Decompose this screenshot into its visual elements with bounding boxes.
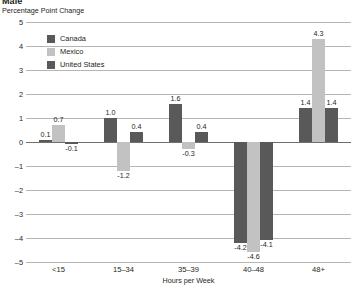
legend-label-mexico: Mexico — [60, 47, 83, 56]
bar-slot: -4.1 — [260, 22, 273, 262]
bar[interactable] — [299, 108, 312, 142]
legend-item-united-states: United States — [47, 59, 104, 70]
bar-value-label: 1.4 — [327, 99, 337, 107]
bar-group: 1.6-0.30.4 — [156, 22, 221, 262]
bar-value-label: 1.4 — [301, 99, 311, 107]
bar-value-label: -4.1 — [260, 241, 272, 249]
bar-slot: 0.4 — [195, 22, 208, 262]
bar[interactable] — [130, 132, 143, 142]
bar-value-label: -0.1 — [65, 145, 77, 153]
y-axis-tick-label: 4 — [19, 42, 23, 51]
chart-subtitle: Percentage Point Change — [2, 6, 84, 15]
bar[interactable] — [52, 125, 65, 142]
bar-slot: -0.3 — [182, 22, 195, 262]
legend-label-united-states: United States — [60, 60, 104, 69]
y-axis-tick-label: –1 — [15, 162, 23, 171]
bar-value-label: -4.2 — [234, 244, 246, 252]
legend-label-canada: Canada — [60, 34, 86, 43]
x-axis-category-label: 15–34 — [91, 262, 156, 276]
bar-value-label: 1.6 — [171, 95, 181, 103]
bar-value-label: 0.7 — [54, 116, 64, 124]
bar-slot: 1.4 — [299, 22, 312, 262]
y-axis-tick-label: –4 — [15, 234, 23, 243]
bar-group-bars: 1.6-0.30.4 — [156, 22, 221, 262]
bar[interactable] — [195, 132, 208, 142]
x-axis-category-label: 35–39 — [156, 262, 221, 276]
legend-swatch-united-states — [47, 61, 55, 69]
bar-slot: 1.4 — [325, 22, 338, 262]
bar-group-bars: 1.44.31.4 — [286, 22, 351, 262]
bar-slot: -1.2 — [117, 22, 130, 262]
y-axis-tick-label: –2 — [15, 186, 23, 195]
bar[interactable] — [234, 142, 247, 243]
x-axis-category-label: <15 — [26, 262, 91, 276]
y-axis-tick-label: 0 — [19, 138, 23, 147]
bar-value-label: 1.0 — [106, 109, 116, 117]
bar[interactable] — [312, 39, 325, 142]
y-axis-tick-label: –5 — [15, 258, 23, 267]
bar-slot: -4.2 — [234, 22, 247, 262]
bar-group: 1.44.31.4 — [286, 22, 351, 262]
x-axis-labels: <1515–3435–3940–4848+ — [26, 262, 351, 276]
y-axis-tick-label: –3 — [15, 210, 23, 219]
bar[interactable] — [182, 142, 195, 149]
bar[interactable] — [169, 104, 182, 142]
bar-value-label: 0.1 — [41, 131, 51, 139]
bar-value-label: 0.4 — [197, 123, 207, 131]
y-axis-tick-label: 3 — [19, 66, 23, 75]
bar-slot: -4.6 — [247, 22, 260, 262]
legend-item-mexico: Mexico — [47, 46, 104, 57]
bar-group-bars: -4.2-4.6-4.1 — [221, 22, 286, 262]
bar[interactable] — [325, 108, 338, 142]
bar-slot: 1.0 — [104, 22, 117, 262]
legend-item-canada: Canada — [47, 33, 104, 44]
bar-value-label: -4.6 — [247, 253, 259, 261]
bar-value-label: 4.3 — [314, 30, 324, 38]
y-axis-tick-label: 2 — [19, 90, 23, 99]
bar-value-label: -1.2 — [117, 172, 129, 180]
y-axis-tick-label: 1 — [19, 114, 23, 123]
x-axis-category-label: 40–48 — [221, 262, 286, 276]
bar-group: -4.2-4.6-4.1 — [221, 22, 286, 262]
bar-value-label: -0.3 — [182, 150, 194, 158]
bar-value-label: 0.4 — [132, 123, 142, 131]
legend-swatch-mexico — [47, 48, 55, 56]
x-axis-category-label: 48+ — [286, 262, 351, 276]
bar[interactable] — [117, 142, 130, 171]
bar[interactable] — [247, 142, 260, 252]
y-axis-tick-label: 5 — [19, 18, 23, 27]
bar[interactable] — [39, 140, 52, 142]
bar[interactable] — [260, 142, 273, 240]
bar-slot: 4.3 — [312, 22, 325, 262]
x-axis-title: Hours per Week — [26, 276, 351, 285]
bar-slot: 1.6 — [169, 22, 182, 262]
chart-legend: Canada Mexico United States — [47, 33, 104, 72]
bar-slot: 0.4 — [130, 22, 143, 262]
bar[interactable] — [104, 118, 117, 142]
chart-container: Male Percentage Point Change 543210–1–2–… — [0, 0, 359, 298]
legend-swatch-canada — [47, 35, 55, 43]
